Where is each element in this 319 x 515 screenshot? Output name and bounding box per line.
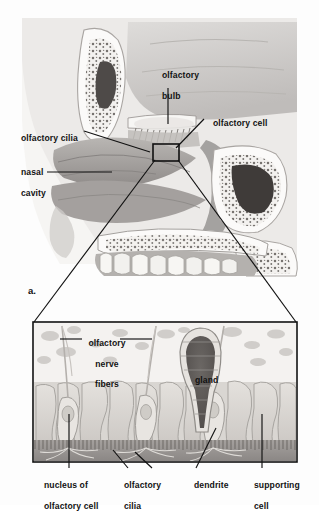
label-nasal-cavity-line1: nasal xyxy=(21,167,43,177)
label-gland: gland xyxy=(185,365,218,396)
label-nasal-cavity: nasal cavity xyxy=(11,157,46,208)
label-nucleus-of-olfactory-cell: nucleus of olfactory cell xyxy=(34,470,98,515)
label-gland-line1: gland xyxy=(195,375,218,385)
label-nucleus-line1: nucleus of xyxy=(44,480,88,490)
label-olfactory-bulb: olfactory bulb xyxy=(152,60,199,111)
label-olfactory-cilia-inset: olfactory cilia xyxy=(114,470,161,515)
label-nasal-cavity-line2: cavity xyxy=(21,188,46,198)
label-supporting-cell-line2: cell xyxy=(254,501,269,511)
label-olfactory-bulb-line1: olfactory xyxy=(162,70,199,80)
label-cilia-inset-line1: olfactory xyxy=(124,480,161,490)
label-supporting-cell-line1: supporting xyxy=(254,480,300,490)
label-nerve-fibers-line3: fibers xyxy=(95,379,119,389)
label-olfactory-cilia: olfactory cilia xyxy=(11,123,78,154)
label-olfactory-nerve-fibers: olfactory nerve fibers xyxy=(64,328,140,399)
label-olfactory-cell-line1: olfactory cell xyxy=(213,118,267,128)
panel-letter: a. xyxy=(28,285,36,296)
label-olfactory-cell: olfactory cell xyxy=(203,108,267,139)
label-supporting-cell: supporting cell xyxy=(244,470,300,515)
label-nerve-fibers-line2: nerve xyxy=(95,359,118,369)
label-dendrite-line1: dendrite xyxy=(194,480,229,490)
label-olfactory-bulb-line2: bulb xyxy=(162,91,181,101)
label-olfactory-cilia-line1: olfactory cilia xyxy=(21,133,78,143)
label-nerve-fibers-line1: olfactory xyxy=(88,338,125,348)
label-cilia-inset-line2: cilia xyxy=(124,501,141,511)
label-nucleus-line2: olfactory cell xyxy=(44,501,98,511)
label-dendrite: dendrite xyxy=(184,470,229,501)
